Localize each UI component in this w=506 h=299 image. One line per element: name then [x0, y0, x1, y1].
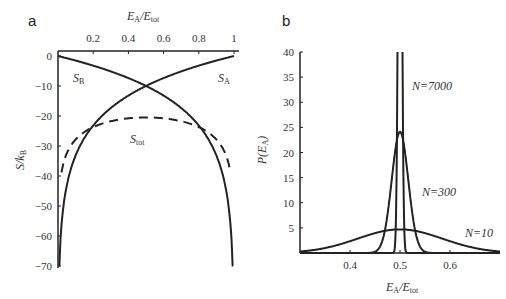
svg-text:1: 1 [231, 32, 237, 44]
svg-text:−50: −50 [35, 200, 53, 212]
svg-text:30: 30 [283, 96, 295, 108]
svg-text:20: 20 [283, 147, 295, 159]
annotation-n-10: N=10 [464, 226, 493, 240]
svg-text:0: 0 [47, 50, 53, 62]
svg-text:0.8: 0.8 [192, 32, 206, 44]
svg-text:0.6: 0.6 [443, 259, 457, 271]
panel-a-label: a [28, 12, 37, 29]
svg-text:5: 5 [289, 222, 295, 234]
annotation-n-300: N=300 [421, 185, 456, 199]
svg-text:15: 15 [283, 172, 295, 184]
panel-a-series [58, 56, 234, 266]
svg-text:0.5: 0.5 [393, 259, 407, 271]
svg-text:10: 10 [283, 197, 295, 209]
annotation-s-a: SA [218, 71, 230, 86]
svg-text:40: 40 [283, 46, 295, 58]
svg-text:0.2: 0.2 [86, 32, 100, 44]
svg-text:0.4: 0.4 [122, 32, 136, 44]
svg-text:25: 25 [283, 121, 295, 133]
svg-text:−40: −40 [35, 170, 53, 182]
curve-n-7000 [300, 0, 500, 253]
annotation-s-b: SB [73, 71, 84, 86]
panel-b-xlabel: EA/Etot [385, 280, 419, 295]
panel-a-xlabel: EA/Etot [126, 9, 160, 24]
panel-a-ylabel: S/kB [13, 150, 28, 170]
svg-text:−70: −70 [35, 260, 53, 272]
annotation-n-7000: N=7000 [411, 79, 452, 93]
svg-text:35: 35 [283, 71, 295, 83]
figure: a b 0.20.40.60.810−10−20−30−40−50−60−70 … [0, 0, 506, 299]
panel-a-axes: 0.20.40.60.810−10−20−30−40−50−60−70 [35, 32, 239, 272]
svg-text:−30: −30 [35, 140, 53, 152]
svg-text:−20: −20 [35, 110, 53, 122]
svg-text:−60: −60 [35, 230, 53, 242]
svg-text:0.6: 0.6 [157, 32, 171, 44]
svg-text:−10: −10 [35, 80, 53, 92]
panel-b-label: b [282, 12, 290, 29]
svg-text:0.4: 0.4 [343, 259, 357, 271]
annotation-s-tot: Stot [130, 132, 145, 147]
panel-b-series [300, 0, 500, 253]
panel-b-ylabel: P(EA) [255, 136, 270, 165]
